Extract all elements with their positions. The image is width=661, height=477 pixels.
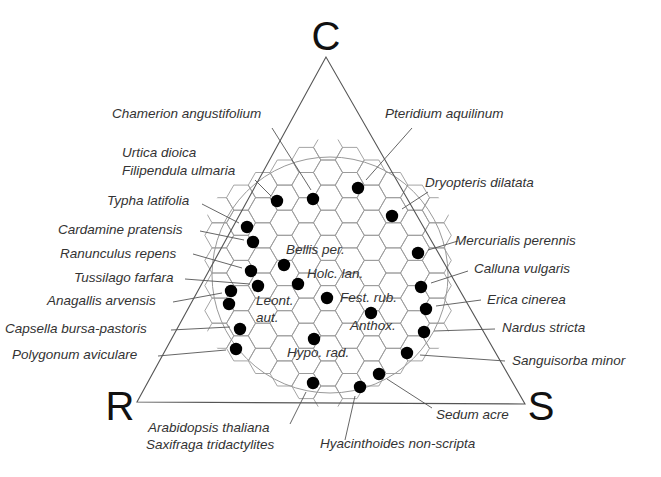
hex-cell (248, 348, 277, 373)
species-dot-cardamine-pratensis (247, 236, 259, 248)
hex-cell (314, 210, 343, 235)
species-dot-chamerion-angustifolium (307, 193, 319, 205)
species-dot-typha-latifolia (241, 221, 253, 233)
species-dot-calluna-vulgaris (415, 281, 427, 293)
species-dot-arabidopsis-thaliana (307, 377, 319, 389)
species-label-ranunculus-repens: Ranunculus repens (60, 246, 177, 261)
hex-cell (270, 210, 299, 235)
hex-cell (314, 386, 343, 411)
species-label-fest-rub: Fest. rub. (340, 290, 397, 305)
species-label-anagallis-arvensis: Anagallis arvensis (46, 293, 156, 308)
hex-cell (314, 135, 343, 160)
hex-cell (357, 160, 386, 185)
species-dot-dryopteris-dilatata (386, 210, 398, 222)
hex-cell (401, 210, 430, 235)
species-dot-anagallis-arvensis (225, 285, 237, 297)
vertex-label-r: R (106, 384, 135, 428)
species-dot-fest-rub (321, 292, 333, 304)
species-label-holc-lan: Holc. lan. (307, 266, 363, 281)
leader-line-tussilago-farfara (185, 279, 250, 284)
leader-line-erica-cinerea (436, 300, 481, 306)
species-dots (223, 182, 432, 393)
leader-line-capsella-bursa-pastoris (171, 327, 230, 330)
leader-line-nardus-stricta (434, 329, 495, 331)
species-label-filipendula-ulmaria: Filipendula ulmaria (122, 163, 236, 178)
csr-triangle-diagram: CRS Chamerion angustifoliumPteridium aqu… (0, 0, 661, 477)
species-dot-sanguisorba-minor (401, 347, 413, 359)
species-label-aut: aut. (256, 310, 279, 325)
species-label-cardamine-pratensis: Cardamine pratensis (58, 222, 183, 237)
hex-cell (248, 323, 277, 348)
hex-cell (314, 160, 343, 185)
hex-cell (335, 198, 364, 223)
species-dot-capsella-bursa-pastoris (234, 323, 246, 335)
hex-cell (270, 361, 299, 386)
leader-line-sanguisorba-minor (420, 355, 505, 361)
hex-cell (379, 173, 408, 198)
hex-cell (314, 311, 343, 336)
species-label-calluna-vulgaris: Calluna vulgaris (474, 261, 570, 276)
species-dot-sedum-acre (373, 368, 385, 380)
species-dot-leont (223, 298, 235, 310)
species-label-mercurialis-perennis: Mercurialis perennis (455, 233, 576, 248)
species-label-bellis-per: Bellis per. (286, 242, 345, 257)
leader-line-filipendula-ulmaria (255, 180, 271, 196)
species-label-saxifraga-tridactylites: Saxifraga tridactylites (146, 437, 275, 452)
species-label-leont: Leont. (256, 293, 294, 308)
species-label-nardus-stricta: Nardus stricta (502, 320, 586, 335)
species-label-sanguisorba-minor: Sanguisorba minor (512, 353, 626, 368)
species-label-pteridium-aquilinum: Pteridium aquilinum (385, 106, 504, 121)
hex-cell (401, 260, 430, 285)
species-label-dryopteris-dilatata: Dryopteris dilatata (425, 175, 534, 190)
species-dot-ranunculus-repens (245, 265, 257, 277)
species-label-tussilago-farfara: Tussilago farfara (74, 270, 174, 285)
species-label-typha-latifolia: Typha latifolia (107, 193, 190, 208)
species-label-anthox: Anthox. (349, 318, 396, 333)
species-dot-holc-lan (292, 278, 304, 290)
species-dot-filipendula-ulmaria (271, 195, 283, 207)
hex-cell (357, 235, 386, 260)
species-label-urtica-dioica: Urtica dioica (122, 145, 197, 160)
species-dot-bellis-per (278, 259, 290, 271)
species-label-capsella-bursa-pastoris: Capsella bursa-pastoris (5, 321, 147, 336)
species-label-hyacinthoides-non-scripta: Hyacinthoides non-scripta (320, 436, 476, 451)
species-dot-pteridium-aquilinum (352, 182, 364, 194)
hex-cell (422, 198, 451, 223)
hex-cell (292, 298, 321, 323)
species-dot-erica-cinerea (420, 303, 432, 315)
species-label-erica-cinerea: Erica cinerea (487, 292, 566, 307)
hex-cell (379, 223, 408, 248)
vertex-labels: CRS (106, 14, 555, 428)
species-label-polygonum-aviculare: Polygonum aviculare (12, 347, 137, 362)
species-dot-hypo-rad (308, 333, 320, 345)
species-dot-mercurialis-perennis (412, 247, 424, 259)
species-label-chamerion-angustifolium: Chamerion angustifolium (112, 106, 261, 121)
vertex-label-s: S (528, 384, 555, 428)
hex-cell (205, 198, 234, 223)
species-dot-tussilago-farfara (252, 280, 264, 292)
species-label-hypo-rad: Hypo. rad. (287, 345, 349, 360)
hex-cell (379, 248, 408, 273)
hex-cell (292, 147, 321, 172)
species-dot-nardus-stricta (418, 326, 430, 338)
species-dot-hyacinthoides-non-scripta (354, 381, 366, 393)
hex-cell (248, 173, 277, 198)
vertex-label-c: C (312, 14, 341, 58)
hex-cell (335, 147, 364, 172)
species-dot-polygonum-aviculare (230, 343, 242, 355)
leader-line-chamerion-angustifolium (272, 128, 311, 190)
species-label-arabidopsis-thaliana: Arabidopsis thaliana (147, 420, 270, 435)
leader-line-polygonum-aviculare (158, 350, 226, 356)
hex-cell (357, 210, 386, 235)
hex-cell (357, 336, 386, 361)
species-label-sedum-acre: Sedum acre (436, 407, 509, 422)
